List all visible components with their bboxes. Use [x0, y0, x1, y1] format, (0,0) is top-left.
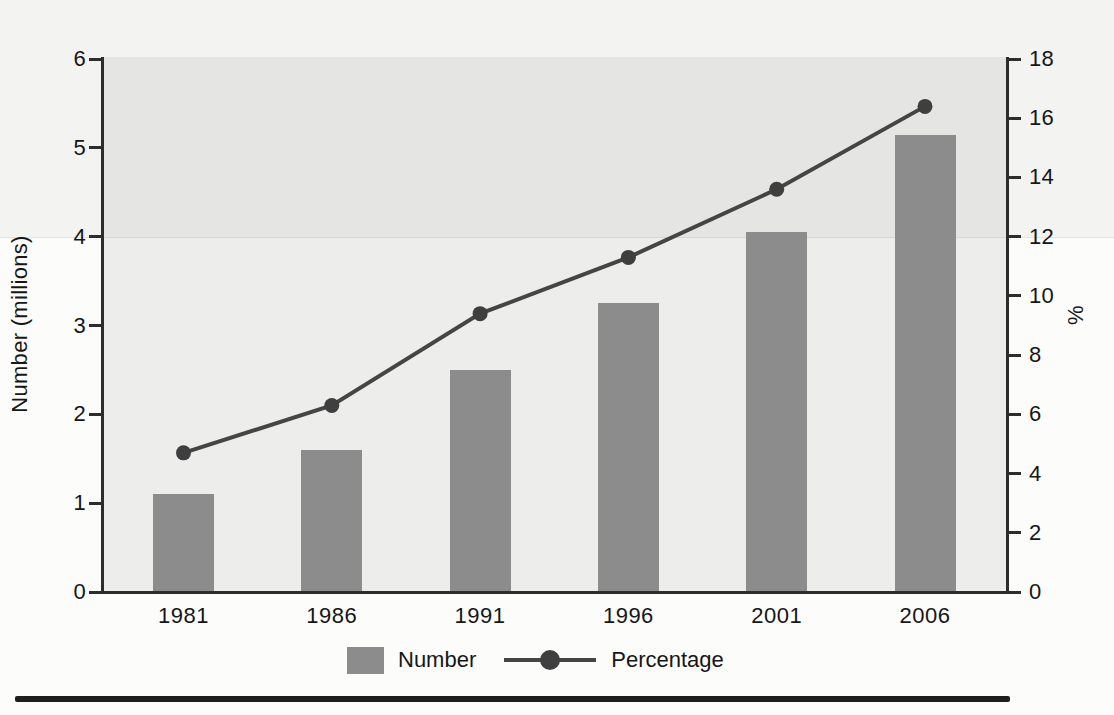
x-tick-label-2001: 2001: [722, 603, 832, 629]
x-tick-label-1991: 1991: [425, 603, 535, 629]
y-left-tick-label: 1: [18, 489, 86, 517]
y-left-tick-label: 5: [18, 134, 86, 162]
legend-percentage-line-icon: [504, 658, 596, 662]
x-tick-label-1986: 1986: [277, 603, 387, 629]
y-right-tick-label: 0: [1029, 578, 1099, 606]
y-left-tick: [89, 591, 102, 594]
bar-2006: [895, 135, 956, 592]
y-left-tick-label: 6: [18, 45, 86, 73]
y-left-tick: [89, 502, 102, 505]
legend: Number Percentage: [347, 645, 724, 675]
y-right-tick: [1008, 117, 1021, 120]
x-tick-label-1981: 1981: [129, 603, 239, 629]
y-left-tick: [89, 235, 102, 238]
x-axis-line: [101, 591, 1009, 594]
scanned-chart-page: 0123456 024681012141618 1981198619911996…: [0, 0, 1114, 715]
y-right-tick: [1008, 176, 1021, 179]
bar-1996: [598, 303, 659, 592]
legend-number-label: Number: [398, 647, 476, 673]
x-tick-label-1996: 1996: [573, 603, 683, 629]
legend-number-swatch-icon: [347, 647, 384, 674]
y-left-tick-label: 0: [18, 578, 86, 606]
plot-area-background: [103, 57, 1007, 592]
y-right-tick: [1008, 354, 1021, 357]
y-left-tick: [89, 413, 102, 416]
y-right-tick-label: 2: [1029, 519, 1099, 547]
figure-bottom-rule: [15, 696, 1010, 702]
bar-1981: [153, 494, 214, 592]
y-axis-left-title: Number (millions): [7, 214, 33, 434]
bar-1986: [301, 450, 362, 592]
legend-percentage-label: Percentage: [611, 647, 724, 673]
bar-2001: [746, 232, 807, 592]
y-axis-right-title: %: [1063, 205, 1089, 425]
y-right-tick: [1008, 235, 1021, 238]
bar-1991: [450, 370, 511, 592]
y-right-tick-label: 4: [1029, 460, 1099, 488]
legend-percentage-dot-icon: [540, 650, 560, 670]
y-right-tick: [1008, 591, 1021, 594]
y-right-tick: [1008, 294, 1021, 297]
y-right-tick-label: 18: [1029, 45, 1099, 73]
y-right-tick-label: 14: [1029, 163, 1099, 191]
y-right-tick: [1008, 58, 1021, 61]
y-left-tick: [89, 324, 102, 327]
y-left-tick: [89, 58, 102, 61]
y-right-tick: [1008, 472, 1021, 475]
y-left-tick: [89, 146, 102, 149]
y-axis-right-line: [1006, 57, 1009, 594]
x-tick-label-2006: 2006: [870, 603, 980, 629]
y-right-tick-label: 16: [1029, 104, 1099, 132]
y-right-tick: [1008, 531, 1021, 534]
y-right-tick: [1008, 413, 1021, 416]
